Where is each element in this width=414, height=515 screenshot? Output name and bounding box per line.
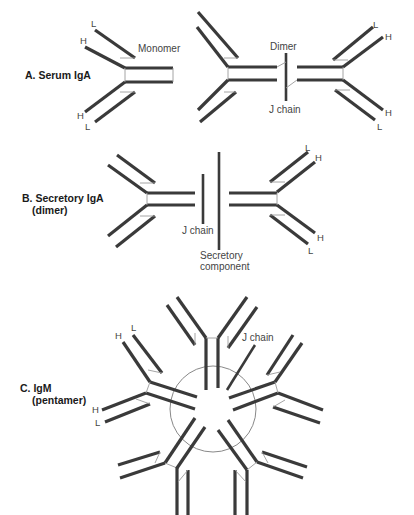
light-chain-label: L (308, 245, 313, 256)
secretory-component-annotation: Secretory (200, 250, 243, 261)
j-chain-annotation: J chain (269, 104, 301, 115)
igm-monomer-bottom-left (118, 418, 205, 515)
light-chain-label: L (85, 121, 90, 132)
heavy-chain-label: H (385, 31, 392, 42)
heavy-chain-label: H (317, 232, 324, 243)
igm-monomer-top (167, 297, 257, 390)
panel-a: A. Serum IgA H L H L Monomer (25, 12, 392, 132)
igm-monomer-right (229, 335, 323, 423)
light-chain-label: L (373, 19, 378, 30)
j-chain-annotation: J chain (182, 225, 214, 236)
panel-b: B. Secretory IgA (dimer) (22, 142, 324, 272)
heavy-chain-label: H (315, 152, 322, 163)
heavy-chain-label: H (80, 35, 87, 46)
heavy-chain-label: H (385, 107, 392, 118)
panel-b-subtitle: (dimer) (32, 204, 68, 216)
light-chain-label: L (377, 121, 382, 132)
panel-c-title: C. IgM (20, 382, 52, 394)
light-chain-label: L (131, 322, 136, 333)
panel-a-title: A. Serum IgA (25, 69, 91, 81)
panel-c: C. IgM (pentamer) (20, 297, 323, 515)
heavy-chain-label: H (77, 110, 84, 121)
dimer-annotation: Dimer (270, 41, 297, 52)
j-chain-annotation: J chain (242, 332, 274, 343)
light-chain-label: L (305, 142, 310, 153)
immunoglobulin-diagram: A. Serum IgA H L H L Monomer (0, 0, 414, 515)
light-chain-label: L (91, 18, 96, 29)
panel-c-subtitle: (pentamer) (32, 394, 86, 406)
heavy-chain-label: H (115, 330, 122, 341)
j-chain (227, 345, 255, 390)
secretory-component-annotation-line2: component (200, 261, 250, 272)
heavy-chain-label: H (92, 404, 99, 415)
light-chain-label: L (95, 417, 100, 428)
monomer-annotation: Monomer (138, 43, 181, 54)
panel-b-title: B. Secretory IgA (22, 192, 104, 204)
igm-monomer-bottom-right (218, 420, 307, 515)
